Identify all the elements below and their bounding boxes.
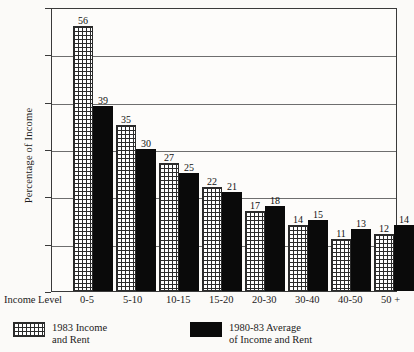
legend-label-1980-83: 1980-83 Average of Income and Rent	[229, 322, 312, 345]
bar: 22	[202, 187, 222, 291]
bar-value-label: 15	[313, 210, 323, 220]
x-tick-label: 40-50	[338, 295, 363, 306]
bar: 18	[265, 206, 285, 291]
bar: 12	[374, 234, 394, 291]
x-axis-title: Income Level	[4, 295, 62, 306]
x-tick-label: 30-40	[295, 295, 320, 306]
plot-area: 56393530272522211718141511131214	[51, 8, 397, 292]
y-tick-mark	[45, 8, 51, 9]
bar: 35	[116, 125, 136, 291]
legend-item-1983-income-and-rent: 1983 Income and Rent	[13, 322, 107, 345]
bar-value-label: 12	[379, 224, 389, 234]
bar: 56	[73, 26, 93, 291]
x-tick-label: 10-15	[166, 295, 191, 306]
bar-value-label: 27	[164, 153, 174, 163]
bar: 13	[351, 229, 371, 291]
bar-value-label: 13	[356, 219, 366, 229]
bar: 14	[288, 225, 308, 291]
bar: 25	[179, 173, 199, 291]
x-tick-label: 20-30	[252, 295, 277, 306]
bar: 11	[331, 239, 351, 291]
x-tick-label: 50 +	[381, 295, 400, 306]
bar-value-label: 30	[141, 139, 151, 149]
legend-label-1983: 1983 Income and Rent	[52, 322, 107, 345]
bar: 14	[394, 225, 414, 291]
y-axis-title: Percentage of Income	[23, 76, 34, 236]
bar-value-label: 17	[250, 201, 260, 211]
bar: 15	[308, 220, 328, 291]
x-tick-label: 0-5	[80, 295, 94, 306]
legend-label-1980-83-line2: of Income and Rent	[229, 334, 312, 345]
bar: 21	[222, 192, 242, 291]
gridline	[52, 56, 396, 57]
legend-label-1980-83-line1: 1980-83 Average	[229, 322, 301, 333]
y-tick-mark	[45, 197, 51, 198]
bar-value-label: 21	[227, 182, 237, 192]
y-tick-mark	[45, 292, 51, 293]
bar-value-label: 14	[399, 215, 409, 225]
x-tick-label: 5-10	[123, 295, 142, 306]
bar-value-label: 14	[293, 215, 303, 225]
legend-swatch-solid-icon	[190, 322, 222, 337]
bar-value-label: 56	[78, 16, 88, 26]
bar-value-label: 11	[336, 229, 346, 239]
legend-label-1983-line1: 1983 Income	[52, 322, 107, 333]
bar-value-label: 22	[207, 177, 217, 187]
y-tick-mark	[45, 103, 51, 104]
y-tick-mark	[45, 150, 51, 151]
bar-value-label: 25	[184, 163, 194, 173]
legend-item-1980-83-average: 1980-83 Average of Income and Rent	[190, 322, 312, 345]
bar-value-label: 39	[98, 96, 108, 106]
y-tick-mark	[45, 245, 51, 246]
bar: 27	[159, 163, 179, 291]
bar: 30	[136, 149, 156, 291]
y-tick-mark	[45, 55, 51, 56]
bar: 39	[93, 106, 113, 291]
bar-value-label: 35	[121, 115, 131, 125]
legend-label-1983-line2: and Rent	[52, 334, 90, 345]
x-tick-label: 15-20	[209, 295, 234, 306]
legend-swatch-hatched-icon	[13, 322, 45, 337]
bar: 17	[245, 211, 265, 291]
bar-value-label: 18	[270, 196, 280, 206]
